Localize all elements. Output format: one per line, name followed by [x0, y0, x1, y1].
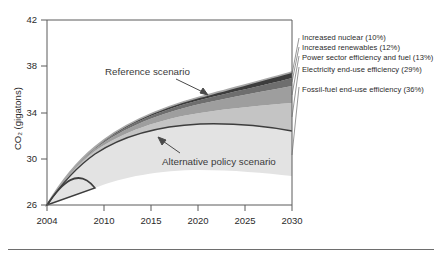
- x-tick-label-2010: 2010: [84, 215, 124, 226]
- leader-fossil: [292, 87, 299, 155]
- legend-item-electricity-end-use-efficiency: Electricity end-use efficiency (29%): [302, 65, 422, 74]
- annotation-reference-scenario: Reference scenario: [105, 66, 190, 77]
- annotation-alternative-policy-scenario: Alternative policy scenario: [162, 156, 276, 167]
- y-tick-marks: [41, 20, 47, 205]
- wedge-bands: [47, 72, 292, 205]
- x-tick-label-2015: 2015: [131, 215, 171, 226]
- legend-item-increased-renewables: Increased renewables (12%): [302, 43, 400, 52]
- legend-item-fossil-fuel-end-use-efficiency: Fossil-fuel end-use efficiency (36%): [302, 85, 424, 94]
- y-tick-label-34: 34: [17, 107, 37, 118]
- y-axis-title: CO₂ (gigatons): [12, 87, 23, 150]
- leader-nuclear: [292, 38, 299, 74]
- legend-item-power-sector-efficiency: Power sector efficiency and fuel (13%): [302, 53, 433, 62]
- x-tick-label-2004: 2004: [27, 215, 67, 226]
- x-tick-marks: [47, 205, 292, 211]
- legend-item-increased-nuclear: Increased nuclear (10%): [302, 33, 386, 42]
- x-tick-label-2020: 2020: [178, 215, 218, 226]
- bottom-divider: [8, 249, 434, 250]
- y-tick-label-26: 26: [17, 199, 37, 210]
- figure-container: CO₂ (gigatons) 42 38 34 30 26 2004 2010 …: [0, 0, 442, 259]
- arrow-reference-head: [200, 88, 208, 95]
- y-tick-label-38: 38: [17, 60, 37, 71]
- x-tick-label-2030: 2030: [272, 215, 312, 226]
- x-tick-label-2025: 2025: [225, 215, 265, 226]
- legend-leader-lines: [292, 38, 299, 155]
- y-tick-label-30: 30: [17, 153, 37, 164]
- y-tick-label-42: 42: [17, 14, 37, 25]
